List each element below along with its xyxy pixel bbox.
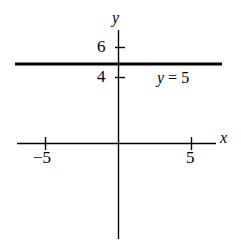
coordinate-plane-svg [0,0,241,246]
x-tick-label-5: 5 [186,149,195,166]
y-axis-label: y [112,10,119,26]
line-equation-label: y = 5 [157,70,189,86]
graph-figure: y x 6 4 −5 5 y = 5 [0,0,241,246]
y-tick-label-6: 6 [97,38,106,55]
y-tick-label-4: 4 [97,68,106,85]
x-axis-label: x [220,130,227,146]
line-equation-value: = 5 [168,69,189,86]
x-tick-label-neg5: −5 [33,149,51,166]
line-equation-variable: y [157,69,164,86]
